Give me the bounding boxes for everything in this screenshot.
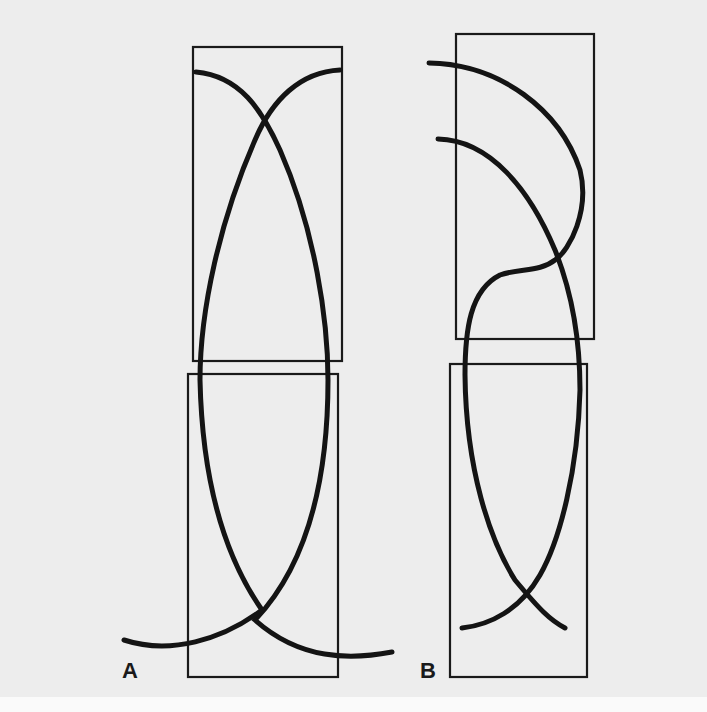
- panel-b-label: B: [420, 658, 436, 683]
- panel-b-curve-inner: [438, 139, 580, 628]
- panel-a: A: [122, 47, 392, 683]
- panel-b-lower-box: [450, 364, 587, 677]
- panel-a-curve-2: [124, 70, 340, 646]
- diagram-canvas: A B: [0, 0, 707, 712]
- panel-b-upper-box: [456, 34, 594, 339]
- panel-a-label: A: [122, 658, 138, 683]
- panel-b-curve-outer: [429, 63, 583, 628]
- panel-b: B: [420, 34, 594, 683]
- panel-a-lower-box: [188, 374, 338, 677]
- panel-a-upper-box: [193, 47, 342, 361]
- panel-a-curve-1: [196, 72, 392, 656]
